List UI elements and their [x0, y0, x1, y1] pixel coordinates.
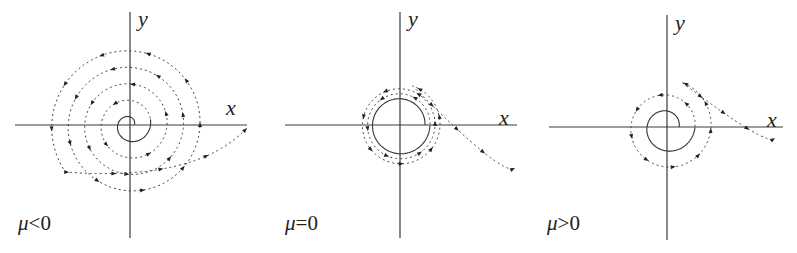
arrowhead-icon: [124, 172, 129, 176]
arrowhead-icon: [110, 67, 116, 72]
arrowhead-icon: [64, 170, 69, 174]
solid-spiral-mu-positive: [647, 111, 695, 151]
arrowhead-icon: [417, 150, 423, 156]
dashed-trajectory-mu-negative: [52, 51, 247, 191]
arrowhead-icon: [671, 165, 676, 170]
arrowhead-icon: [99, 53, 105, 58]
arrowhead-icon: [68, 140, 73, 146]
arrowhead-icon: [180, 165, 186, 171]
arrowhead-icon: [384, 153, 390, 159]
arrowhead-icon: [181, 112, 186, 118]
arrowhead-icon: [399, 162, 404, 166]
arrowhead-icon: [183, 77, 189, 83]
y-axis-label-mu-zero: y: [408, 8, 418, 30]
condition-label-mu-negative: μ<0: [18, 213, 51, 234]
arrowhead-icon: [709, 128, 713, 133]
arrowhead-icon: [683, 100, 689, 106]
arrowhead-icon: [163, 110, 168, 116]
arrowhead-icon: [770, 136, 776, 142]
arrowhead-icon: [379, 96, 385, 102]
arrowhead-icon: [87, 145, 93, 151]
arrowhead-icon: [242, 127, 248, 133]
arrowhead-icon: [416, 86, 422, 92]
solid-spiral-mu-zero: [373, 99, 431, 154]
arrowhead-icon: [146, 151, 152, 157]
arrowhead-icon: [744, 125, 750, 131]
arrowhead-icon: [703, 100, 709, 106]
arrowhead-icon: [203, 153, 209, 159]
arrowhead-icon: [433, 121, 437, 126]
arrowhead-icon: [365, 126, 370, 132]
phase-portraits-svg: [0, 0, 797, 253]
condition-label-mu-positive: μ>0: [547, 213, 580, 234]
arrowhead-icon: [89, 100, 95, 106]
solid-spiral-mu-negative: [118, 117, 151, 142]
x-axis-label-mu-negative: x: [226, 97, 236, 119]
y-axis-label-mu-positive: y: [675, 12, 685, 34]
arrowhead-icon: [158, 167, 164, 172]
arrowhead-icon: [94, 178, 100, 184]
arrowhead-icon: [111, 171, 116, 175]
x-axis-label-mu-zero: x: [499, 107, 509, 129]
condition-label-mu-zero: μ=0: [285, 213, 318, 234]
arrowhead-icon: [112, 101, 118, 107]
arrowhead-icon: [415, 91, 421, 97]
arrowhead-icon: [412, 95, 418, 101]
arrowhead-icon: [510, 166, 516, 172]
x-axis-label-mu-positive: x: [767, 109, 777, 131]
dashed-trajectory-mu-positive: [631, 82, 775, 167]
arrowhead-icon: [73, 94, 79, 100]
arrowhead-icon: [50, 126, 54, 131]
arrowhead-icon: [62, 81, 68, 87]
y-axis-label-mu-negative: y: [138, 8, 148, 30]
arrowhead-icon: [480, 149, 486, 155]
phase-portrait-figure: x y μ<0 x y μ=0 x y μ>0: [0, 0, 797, 253]
arrowhead-icon: [145, 51, 151, 56]
arrowhead-icon: [634, 107, 640, 113]
arrowhead-icon: [720, 110, 726, 116]
arrowhead-icon: [382, 89, 388, 95]
arrowhead-icon: [155, 73, 161, 79]
arrowhead-icon: [629, 134, 634, 140]
